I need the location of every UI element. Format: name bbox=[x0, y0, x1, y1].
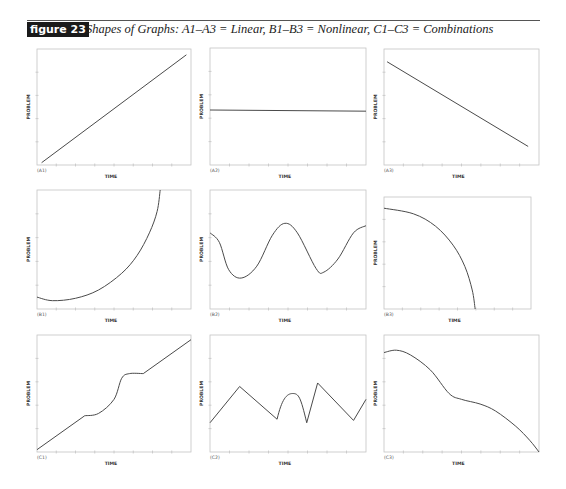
panel-label: (A1) bbox=[37, 168, 47, 173]
y-axis-label: PROBLEM bbox=[26, 381, 31, 406]
panel-label: (C3) bbox=[384, 455, 394, 460]
x-axis-label: TIME bbox=[105, 174, 118, 179]
x-axis-label: TIME bbox=[452, 174, 465, 179]
x-axis-label: TIME bbox=[448, 318, 461, 323]
chart-panel-b3: PROBLEM(B3)TIME bbox=[373, 197, 531, 323]
plot-frame bbox=[37, 49, 191, 165]
data-line bbox=[37, 190, 160, 301]
x-axis-label: TIME bbox=[452, 461, 465, 466]
chart-panel-a3: PROBLEM(A3)TIME bbox=[373, 49, 539, 179]
data-line bbox=[210, 110, 366, 111]
chart-panel-a1: PROBLEM(A1)TIME bbox=[26, 49, 191, 179]
data-line bbox=[387, 62, 528, 147]
panel-label: (C1) bbox=[37, 455, 47, 460]
plot-frame bbox=[210, 190, 366, 309]
y-axis-label: PROBLEM bbox=[373, 94, 378, 119]
data-line bbox=[37, 340, 191, 450]
panel-label: (B2) bbox=[210, 312, 220, 317]
y-axis-label: PROBLEM bbox=[26, 94, 31, 119]
chart-panel-c2: PROBLEM(C2)TIME bbox=[199, 335, 366, 466]
data-line bbox=[210, 383, 366, 423]
data-line bbox=[210, 223, 366, 278]
plot-frame bbox=[384, 335, 539, 452]
chart-panel-a2: PROBLEM(A2)TIME bbox=[199, 48, 366, 179]
chart-panel-c1: PROBLEM(C1)TIME bbox=[26, 335, 191, 466]
x-axis-label: TIME bbox=[279, 461, 292, 466]
chart-panel-c3: PROBLEM(C3)TIME bbox=[373, 335, 539, 466]
panel-label: (A2) bbox=[210, 168, 220, 173]
data-line bbox=[384, 208, 475, 309]
data-line bbox=[42, 55, 187, 163]
y-axis-label: PROBLEM bbox=[26, 237, 31, 262]
x-axis-label: TIME bbox=[279, 174, 292, 179]
y-axis-label: PROBLEM bbox=[373, 381, 378, 406]
panel-label: (C2) bbox=[210, 455, 220, 460]
y-axis-label: PROBLEM bbox=[373, 240, 378, 265]
plot-frame bbox=[37, 190, 191, 309]
chart-panel-b1: PROBLEM(B1)TIME bbox=[26, 190, 191, 323]
plot-frame bbox=[37, 335, 191, 452]
x-axis-label: TIME bbox=[279, 318, 292, 323]
panel-label: (B3) bbox=[384, 312, 394, 317]
plot-frame bbox=[210, 48, 366, 165]
chart-grid: PROBLEM(A1)TIMEPROBLEM(A2)TIMEPROBLEM(A3… bbox=[0, 0, 566, 489]
y-axis-label: PROBLEM bbox=[199, 381, 204, 406]
y-axis-label: PROBLEM bbox=[199, 237, 204, 262]
panel-label: (A3) bbox=[384, 168, 394, 173]
chart-panel-b2: PROBLEM(B2)TIME bbox=[199, 190, 366, 323]
x-axis-label: TIME bbox=[105, 318, 118, 323]
data-line bbox=[384, 350, 539, 452]
panel-label: (B1) bbox=[37, 312, 47, 317]
plot-frame bbox=[384, 197, 531, 309]
x-axis-label: TIME bbox=[105, 461, 118, 466]
y-axis-label: PROBLEM bbox=[199, 94, 204, 119]
